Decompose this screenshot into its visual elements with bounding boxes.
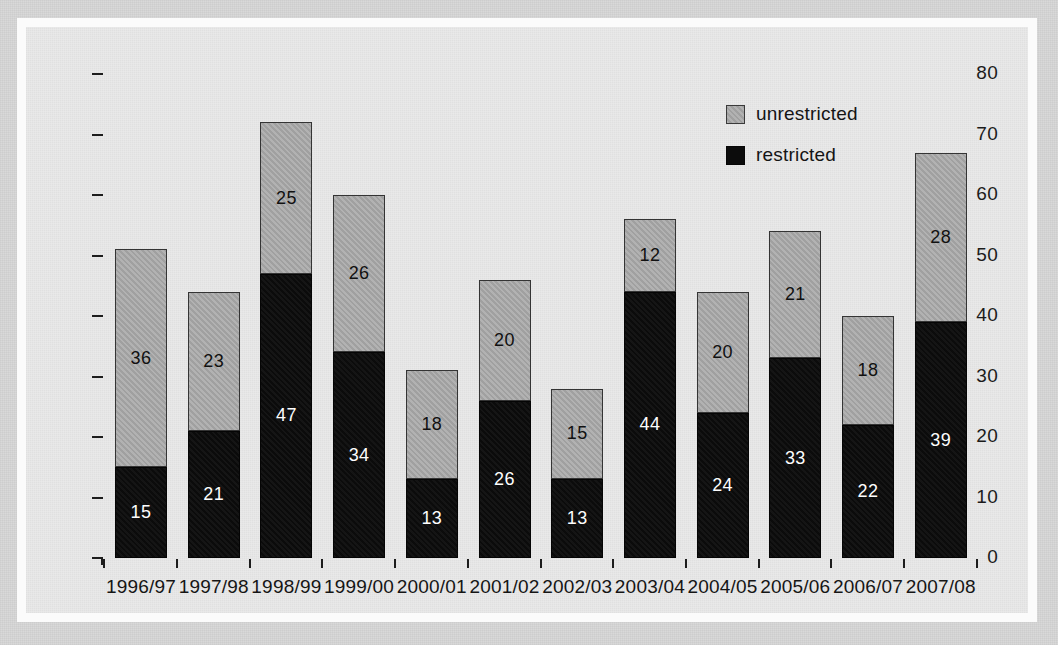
screenshot-root: 8070605040302010036151996/9723211997/982… (0, 0, 1058, 645)
bar-value-label: 33 (785, 448, 806, 469)
bar-segment-restricted: 34 (333, 352, 385, 558)
bar-value-label: 36 (131, 348, 152, 369)
bar-value-label: 23 (203, 351, 224, 372)
bar-segment-restricted: 26 (479, 401, 531, 558)
stacked-bar: 1813 (406, 370, 458, 558)
bar-segment-unrestricted: 20 (479, 280, 531, 401)
bar-value-label: 24 (712, 475, 733, 496)
y-axis-tick-dash (92, 497, 103, 499)
x-axis-tick (540, 559, 542, 568)
bar-value-label: 21 (203, 484, 224, 505)
y-axis-tick-dash (92, 376, 103, 378)
stacked-bar: 1513 (551, 389, 603, 558)
bar-value-label: 25 (276, 188, 297, 209)
x-axis-tick-label: 2006/07 (830, 576, 906, 598)
bar-value-label: 34 (349, 445, 370, 466)
y-axis-tick-dash (92, 73, 103, 75)
x-axis-tick-label: 2002/03 (539, 576, 615, 598)
stacked-bar: 2026 (479, 280, 531, 558)
bar-segment-unrestricted: 28 (915, 153, 967, 322)
bar-value-label: 20 (712, 342, 733, 363)
bar-segment-unrestricted: 21 (769, 231, 821, 358)
x-axis-tick (976, 559, 978, 568)
x-axis-tick-label: 1999/00 (321, 576, 397, 598)
bar-value-label: 20 (494, 330, 515, 351)
x-axis-tick (176, 559, 178, 568)
x-axis-tick (685, 559, 687, 568)
bar-value-label: 18 (421, 414, 442, 435)
legend-label-unrestricted: unrestricted (756, 103, 858, 125)
bar-segment-unrestricted: 20 (697, 292, 749, 413)
y-axis-tick-dash (92, 255, 103, 257)
x-axis-tick-label: 2005/06 (757, 576, 833, 598)
x-axis-tick-label: 1997/98 (176, 576, 252, 598)
stacked-bar: 2024 (697, 292, 749, 558)
x-axis-tick (467, 559, 469, 568)
bar-segment-unrestricted: 36 (115, 249, 167, 467)
bar-segment-restricted: 13 (406, 479, 458, 558)
plot-area: 8070605040302010036151996/9723211997/982… (26, 27, 1028, 613)
legend-item-unrestricted: unrestricted (726, 103, 858, 125)
x-axis-tick (394, 559, 396, 568)
y-axis-tick-label: 70 (958, 123, 998, 145)
x-axis-tick (103, 559, 105, 568)
bar-segment-restricted: 47 (260, 274, 312, 558)
bar-segment-restricted: 15 (115, 467, 167, 558)
x-axis-tick-label: 2001/02 (467, 576, 543, 598)
bar-segment-restricted: 44 (624, 292, 676, 558)
stacked-bar: 2634 (333, 195, 385, 558)
chart-panel: 8070605040302010036151996/9723211997/982… (26, 27, 1028, 613)
bar-segment-unrestricted: 18 (842, 316, 894, 425)
y-axis-tick-dash (92, 194, 103, 196)
y-axis-tick-dash (92, 436, 103, 438)
bar-value-label: 26 (494, 469, 515, 490)
bar-value-label: 26 (349, 263, 370, 284)
gray-square-icon (726, 105, 745, 124)
black-square-icon (726, 146, 745, 165)
x-axis-tick (321, 559, 323, 568)
x-axis-tick (249, 559, 251, 568)
x-axis-tick-label: 1996/97 (103, 576, 179, 598)
bar-value-label: 21 (785, 284, 806, 305)
x-axis-tick (830, 559, 832, 568)
bar-value-label: 15 (131, 502, 152, 523)
stacked-bar: 2321 (188, 292, 240, 558)
bar-segment-unrestricted: 15 (551, 389, 603, 480)
bar-value-label: 28 (930, 227, 951, 248)
bar-value-label: 12 (639, 245, 660, 266)
y-axis-tick-label: 80 (958, 62, 998, 84)
bar-segment-restricted: 24 (697, 413, 749, 558)
bar-segment-unrestricted: 25 (260, 122, 312, 273)
x-axis-tick (903, 559, 905, 568)
bar-segment-unrestricted: 23 (188, 292, 240, 431)
bar-segment-restricted: 33 (769, 358, 821, 558)
bar-value-label: 44 (639, 414, 660, 435)
x-axis-tick-label: 2007/08 (903, 576, 979, 598)
stacked-bar: 2839 (915, 153, 967, 558)
stacked-bar: 3615 (115, 249, 167, 558)
bar-value-label: 13 (421, 508, 442, 529)
stacked-bar: 1244 (624, 219, 676, 558)
legend-label-restricted: restricted (756, 144, 836, 166)
x-axis-tick-label: 1998/99 (248, 576, 324, 598)
x-axis-tick-label: 2003/04 (612, 576, 688, 598)
legend-item-restricted: restricted (726, 144, 858, 166)
bar-segment-restricted: 22 (842, 425, 894, 558)
x-axis-tick-label: 2004/05 (685, 576, 761, 598)
bar-segment-unrestricted: 26 (333, 195, 385, 352)
bar-segment-unrestricted: 12 (624, 219, 676, 292)
stacked-bar: 2133 (769, 231, 821, 558)
x-axis-tick (612, 559, 614, 568)
x-axis-tick-label: 2000/01 (394, 576, 470, 598)
chart-legend: unrestricted restricted (726, 103, 858, 185)
y-axis-tick-dash (92, 315, 103, 317)
stacked-bar: 1822 (842, 316, 894, 558)
bar-value-label: 18 (858, 360, 879, 381)
x-axis-tick (758, 559, 760, 568)
bar-value-label: 22 (858, 481, 879, 502)
bar-value-label: 47 (276, 405, 297, 426)
bar-segment-restricted: 39 (915, 322, 967, 558)
bar-segment-restricted: 13 (551, 479, 603, 558)
bar-segment-restricted: 21 (188, 431, 240, 558)
y-axis-origin-mark (92, 557, 103, 559)
